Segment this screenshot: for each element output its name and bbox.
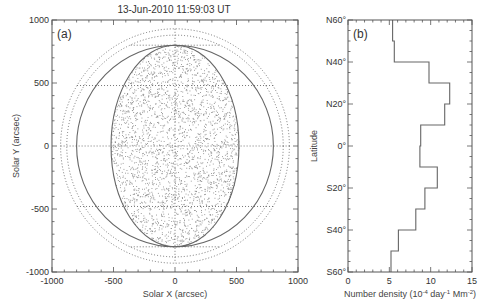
data-point <box>154 231 155 232</box>
data-point <box>155 137 156 138</box>
data-point <box>188 130 189 131</box>
data-point <box>159 149 160 150</box>
data-point <box>173 78 174 79</box>
data-point <box>167 200 168 201</box>
data-point <box>159 85 160 86</box>
data-point <box>224 107 225 108</box>
data-point <box>191 95 192 96</box>
data-point <box>223 119 224 120</box>
data-point <box>216 185 217 186</box>
data-point <box>210 122 211 123</box>
data-point <box>221 195 222 196</box>
data-point <box>173 119 174 120</box>
data-point <box>142 153 143 154</box>
data-point <box>138 88 139 89</box>
data-point <box>144 178 145 179</box>
data-point <box>203 102 204 103</box>
data-point <box>161 112 162 113</box>
data-point <box>200 196 201 197</box>
data-point <box>169 220 170 221</box>
data-point <box>176 172 177 173</box>
data-point <box>177 80 178 81</box>
data-point <box>178 51 179 52</box>
data-point <box>144 112 145 113</box>
data-point <box>184 165 185 166</box>
data-point <box>161 215 162 216</box>
data-point <box>208 116 209 117</box>
data-point <box>197 230 198 231</box>
data-point <box>168 194 169 195</box>
density-step-line <box>391 20 450 272</box>
data-point <box>115 125 116 126</box>
data-point <box>119 117 120 118</box>
data-point <box>141 85 142 86</box>
data-point <box>156 184 157 185</box>
data-point <box>192 78 193 79</box>
data-point <box>157 207 158 208</box>
data-point <box>175 100 176 101</box>
data-point <box>212 79 213 80</box>
data-point <box>152 96 153 97</box>
data-point <box>164 158 165 159</box>
data-point <box>199 61 200 62</box>
data-point <box>186 162 187 163</box>
data-point <box>177 138 178 139</box>
data-point <box>205 173 206 174</box>
data-point <box>172 51 173 52</box>
data-point <box>156 53 157 54</box>
data-point <box>183 100 184 101</box>
x-axis-label-a: Solar X (arcsec) <box>143 289 208 299</box>
data-point <box>180 52 181 53</box>
data-point <box>151 115 152 116</box>
data-point <box>146 188 147 189</box>
data-point <box>217 144 218 145</box>
data-point <box>227 121 228 122</box>
data-point <box>163 164 164 165</box>
data-point <box>205 78 206 79</box>
data-point <box>189 168 190 169</box>
data-point <box>171 208 172 209</box>
data-point <box>168 241 169 242</box>
data-point <box>168 138 169 139</box>
data-point <box>143 59 144 60</box>
data-point <box>198 164 199 165</box>
data-point <box>140 113 141 114</box>
data-point <box>166 234 167 235</box>
data-point <box>231 145 232 146</box>
data-point <box>132 110 133 111</box>
data-point <box>213 173 214 174</box>
data-point <box>236 154 237 155</box>
data-point <box>152 216 153 217</box>
data-point <box>188 121 189 122</box>
data-point <box>218 88 219 89</box>
data-point <box>125 138 126 139</box>
data-point <box>154 199 155 200</box>
data-point <box>149 74 150 75</box>
data-point <box>177 221 178 222</box>
data-point <box>197 187 198 188</box>
data-point <box>204 194 205 195</box>
data-point <box>211 88 212 89</box>
data-point <box>199 115 200 116</box>
data-point <box>213 148 214 149</box>
data-point <box>224 144 225 145</box>
data-point <box>188 143 189 144</box>
data-point <box>116 137 117 138</box>
data-point <box>196 75 197 76</box>
data-point <box>165 227 166 228</box>
data-point <box>220 100 221 101</box>
data-point <box>181 241 182 242</box>
data-point <box>188 110 189 111</box>
data-point <box>144 99 145 100</box>
data-point <box>230 179 231 180</box>
data-point <box>169 120 170 121</box>
data-point <box>193 67 194 68</box>
data-point <box>127 207 128 208</box>
data-point <box>225 98 226 99</box>
data-point <box>126 105 127 106</box>
data-point <box>121 155 122 156</box>
data-point <box>120 144 121 145</box>
data-point <box>189 125 190 126</box>
data-point <box>151 197 152 198</box>
data-point <box>178 214 179 215</box>
